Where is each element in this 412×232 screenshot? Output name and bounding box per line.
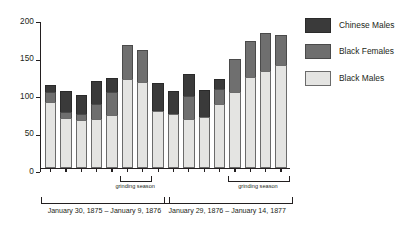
- bar-16: [275, 35, 286, 168]
- legend-label-black-males: Black Males: [339, 74, 384, 83]
- grinding-season-bracket-right: [228, 176, 290, 182]
- x-axis-line: [40, 168, 290, 169]
- bar-5: [106, 78, 117, 168]
- bar-8: [152, 83, 163, 168]
- x-tick-6: [127, 168, 128, 172]
- legend-label-black-females: Black Females: [339, 47, 394, 56]
- bar-11-segment-cm: [199, 90, 210, 117]
- bar-13-segment-bm: [229, 92, 240, 169]
- bar-14-segment-bm: [245, 77, 256, 169]
- y-tick-100: [36, 97, 41, 98]
- y-tick-150: [36, 60, 41, 61]
- x-tick-4: [96, 168, 97, 172]
- bar-8-segment-cm: [152, 83, 163, 111]
- y-tick-200: [36, 22, 41, 23]
- bar-8-segment-bm: [152, 111, 163, 168]
- bar-1-segment-cm: [45, 85, 56, 92]
- bar-7-segment-bf: [137, 50, 148, 82]
- bar-4-segment-bf: [91, 104, 102, 118]
- bar-6-segment-bf: [122, 45, 133, 79]
- bar-1: [45, 85, 56, 168]
- bar-6: [122, 45, 133, 168]
- bar-3-segment-cm: [76, 95, 87, 115]
- bar-14-segment-bf: [245, 41, 256, 76]
- bar-5-segment-cm: [106, 78, 117, 92]
- bar-1-segment-bf: [45, 92, 56, 103]
- x-tick-3: [81, 168, 82, 172]
- bar-2: [60, 91, 71, 168]
- bar-13-segment-bf: [229, 59, 240, 92]
- grinding-season-label-left: grinding season: [90, 183, 180, 189]
- bar-7-segment-bm: [137, 82, 148, 168]
- y-tick-50: [36, 135, 41, 136]
- y-tick-label-200: 200: [4, 18, 34, 26]
- y-tick-0: [36, 172, 41, 173]
- bar-13: [229, 59, 240, 169]
- bar-9: [168, 91, 179, 168]
- bar-7: [137, 50, 148, 169]
- bar-16-segment-bm: [275, 65, 286, 169]
- legend-swatch-black-females: [305, 44, 331, 59]
- bar-9-segment-bm: [168, 114, 179, 168]
- period-bracket-right: [164, 197, 293, 204]
- bar-14: [245, 41, 256, 168]
- bar-4: [91, 81, 102, 168]
- bar-2-segment-bm: [60, 118, 71, 168]
- bar-5-segment-bf: [106, 92, 117, 115]
- grinding-season-bracket-left: [120, 176, 152, 182]
- legend-label-chinese-males: Chinese Males: [339, 21, 394, 30]
- legend-swatch-black-males: [305, 71, 331, 86]
- legend-item-black-females: Black Females: [305, 43, 409, 61]
- legend-item-chinese-males: Chinese Males: [305, 16, 409, 34]
- x-tick-14: [250, 168, 251, 172]
- bar-11-segment-bm: [199, 117, 210, 168]
- bar-15-segment-bf: [260, 33, 271, 71]
- bar-3: [76, 95, 87, 169]
- bar-12: [214, 79, 225, 168]
- y-tick-label-0: 0: [4, 168, 34, 176]
- plot-area: 050100150200: [40, 18, 290, 172]
- period-bracket-left: [41, 197, 170, 204]
- bar-4-segment-bm: [91, 119, 102, 169]
- x-tick-7: [142, 168, 143, 172]
- y-tick-label-100: 100: [4, 93, 34, 101]
- bar-2-segment-cm: [60, 91, 71, 112]
- x-tick-9: [173, 168, 174, 172]
- bar-10-segment-bm: [183, 119, 194, 168]
- bar-6-segment-bm: [122, 79, 133, 168]
- bar-4-segment-cm: [91, 81, 102, 104]
- bar-16-segment-bf: [275, 35, 286, 64]
- bar-15: [260, 33, 271, 168]
- y-tick-label-150: 150: [4, 55, 34, 63]
- bar-10-segment-bf: [183, 96, 194, 119]
- x-tick-16: [280, 168, 281, 172]
- bar-5-segment-bm: [106, 115, 117, 168]
- x-tick-2: [65, 168, 66, 172]
- grinding-season-label-right: grinding season: [198, 183, 318, 189]
- bar-12-segment-bf: [214, 89, 225, 104]
- bar-12-segment-cm: [214, 79, 225, 90]
- bar-9-segment-cm: [168, 91, 179, 114]
- bar-1-segment-bm: [45, 102, 56, 168]
- chart-legend: Chinese Males Black Females Black Males: [305, 16, 409, 96]
- bar-group: [42, 18, 288, 168]
- x-tick-15: [265, 168, 266, 172]
- x-tick-10: [188, 168, 189, 172]
- x-tick-13: [234, 168, 235, 172]
- stacked-bar-chart: 050100150200 grinding season grinding se…: [0, 0, 412, 232]
- bar-10: [183, 74, 194, 169]
- x-tick-12: [219, 168, 220, 172]
- x-tick-11: [204, 168, 205, 172]
- period-label-right: January 29, 1876 – January 14, 1877: [144, 207, 311, 215]
- legend-item-black-males: Black Males: [305, 69, 409, 87]
- x-tick-1: [50, 168, 51, 172]
- bar-3-segment-bm: [76, 120, 87, 168]
- bar-12-segment-bm: [214, 104, 225, 168]
- x-tick-5: [111, 168, 112, 172]
- y-tick-label-50: 50: [4, 130, 34, 138]
- bar-11: [199, 90, 210, 168]
- x-tick-8: [158, 168, 159, 172]
- bar-10-segment-cm: [183, 74, 194, 97]
- bar-15-segment-bm: [260, 71, 271, 169]
- legend-swatch-chinese-males: [305, 18, 331, 33]
